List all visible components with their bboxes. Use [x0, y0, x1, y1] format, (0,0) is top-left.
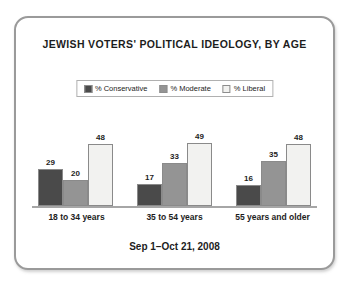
category-label: 55 years and older [232, 212, 313, 222]
plot-area: 292048173349163548 [32, 124, 317, 206]
chart-card: JEWISH VOTERS' POLITICAL IDEOLOGY, BY AG… [14, 16, 335, 270]
bar-item[interactable]: 35 [261, 151, 286, 206]
bar-item[interactable]: 17 [137, 174, 162, 206]
chart-legend: % Conservative % Moderate % Liberal [76, 80, 273, 97]
bar-value-label: 16 [244, 175, 253, 183]
bar-group: 173349 [137, 133, 212, 206]
bar-value-label: 17 [145, 174, 154, 182]
bar-groups: 292048173349163548 [32, 124, 317, 206]
bar[interactable] [261, 161, 286, 206]
bar-item[interactable]: 48 [88, 134, 113, 206]
bar-group: 163548 [236, 134, 311, 206]
bar[interactable] [162, 163, 187, 206]
bar[interactable] [88, 144, 113, 206]
chart-footer-date: Sep 1–Oct 21, 2008 [16, 241, 333, 252]
bar-item[interactable]: 49 [187, 133, 212, 206]
bar-item[interactable]: 33 [162, 153, 187, 206]
legend-label-conservative: % Conservative [95, 84, 148, 93]
bar[interactable] [187, 143, 212, 206]
legend-item-liberal[interactable]: % Liberal [223, 84, 265, 93]
bar-value-label: 20 [71, 170, 80, 178]
bar-value-label: 29 [46, 159, 55, 167]
legend-item-conservative[interactable]: % Conservative [84, 84, 148, 93]
bar-group: 292048 [38, 134, 113, 206]
bar-item[interactable]: 29 [38, 159, 63, 206]
bar-value-label: 48 [294, 134, 303, 142]
bar-value-label: 49 [195, 133, 204, 141]
category-label: 18 to 34 years [36, 212, 117, 222]
category-label: 35 to 54 years [134, 212, 215, 222]
legend-item-moderate[interactable]: % Moderate [159, 84, 210, 93]
legend-swatch-conservative [84, 85, 92, 93]
category-axis-labels: 18 to 34 years35 to 54 years55 years and… [32, 212, 317, 222]
bar-item[interactable]: 20 [63, 170, 88, 206]
bar[interactable] [286, 144, 311, 206]
axis-baseline [32, 206, 317, 208]
chart-title: JEWISH VOTERS' POLITICAL IDEOLOGY, BY AG… [16, 38, 333, 50]
legend-label-liberal: % Liberal [234, 84, 265, 93]
bar-item[interactable]: 48 [286, 134, 311, 206]
legend-swatch-liberal [223, 85, 231, 93]
legend-label-moderate: % Moderate [170, 84, 210, 93]
bar-value-label: 35 [269, 151, 278, 159]
bar-item[interactable]: 16 [236, 175, 261, 206]
bar-value-label: 48 [96, 134, 105, 142]
bar[interactable] [137, 184, 162, 206]
bar[interactable] [236, 185, 261, 206]
legend-swatch-moderate [159, 85, 167, 93]
bar[interactable] [63, 180, 88, 206]
bar[interactable] [38, 169, 63, 206]
bar-value-label: 33 [170, 153, 179, 161]
